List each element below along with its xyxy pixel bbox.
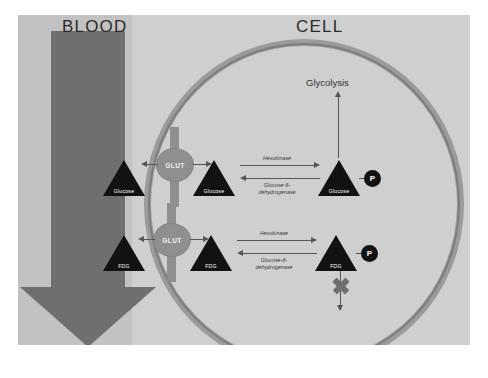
hexokinase-label-bottom: Hexokinase [231, 230, 317, 237]
blood-label: BLOOD [62, 17, 128, 37]
cytosol-fdg-molecule: FDG [190, 235, 232, 271]
glut-label: GLUT [162, 237, 181, 244]
phosphate-group-top: P [364, 170, 381, 187]
fdg-6-phosphate-molecule: FDG [315, 235, 357, 271]
molecule-label: Glucose [193, 188, 235, 194]
glut-bottom-influx-arrow [143, 239, 155, 240]
g6p-reverse-arrowhead-bottom [237, 250, 243, 256]
glycolysis-arrow [338, 96, 339, 158]
cytosol-glucose-molecule: Glucose [193, 160, 235, 196]
molecule-label: Glucose [103, 188, 145, 194]
fdg-downstream-arrowhead [337, 305, 343, 311]
g6p-reverse-arrowhead-top [240, 175, 246, 181]
molecule-label: FDG [315, 263, 357, 269]
glut-top-influx-arrow [146, 164, 158, 165]
metabolic-pathway-figure: BLOOD CELL Glucose GLUT Glucose Hexokina… [18, 15, 470, 345]
glut-transporter-bottom[interactable]: GLUT [154, 224, 190, 256]
metabolic-block-x-icon [331, 274, 351, 294]
scan-top-cut-text [0, 0, 488, 9]
glucose-6-dehydrogenase-label-top: Glucose-6- dehydrogenase [234, 182, 320, 197]
blood-glucose-molecule: Glucose [103, 160, 145, 196]
glut-transporter-top[interactable]: GLUT [157, 149, 193, 181]
blood-flow-arrow-head [20, 287, 156, 345]
molecule-label: Glucose [318, 188, 360, 194]
phosphate-group-bottom: P [361, 245, 378, 262]
hexokinase-forward-arrow-top [240, 165, 314, 166]
glut-label: GLUT [165, 162, 184, 169]
glycolysis-arrowhead [335, 91, 341, 97]
glut-top-influx-arrowhead [141, 161, 147, 167]
molecule-label: FDG [103, 263, 145, 269]
g6p-reverse-arrow-bottom [243, 253, 317, 254]
hexokinase-label-top: Hexokinase [234, 155, 320, 162]
scan-bottom-cut-text [0, 352, 488, 378]
glucose-6-phosphate-molecule: Glucose [318, 160, 360, 196]
glycolysis-label: Glycolysis [306, 77, 349, 88]
glut-bottom-influx-arrowhead [138, 236, 144, 242]
glut-bottom-stem-lower [167, 252, 176, 282]
g6p-reverse-arrow-top [246, 178, 320, 179]
molecule-label: FDG [190, 263, 232, 269]
glucose-6-dehydrogenase-label-bottom: Glucose-6- dehydrogenase [231, 257, 317, 272]
hexokinase-forward-arrow-bottom [237, 240, 311, 241]
cell-label: CELL [296, 17, 343, 37]
